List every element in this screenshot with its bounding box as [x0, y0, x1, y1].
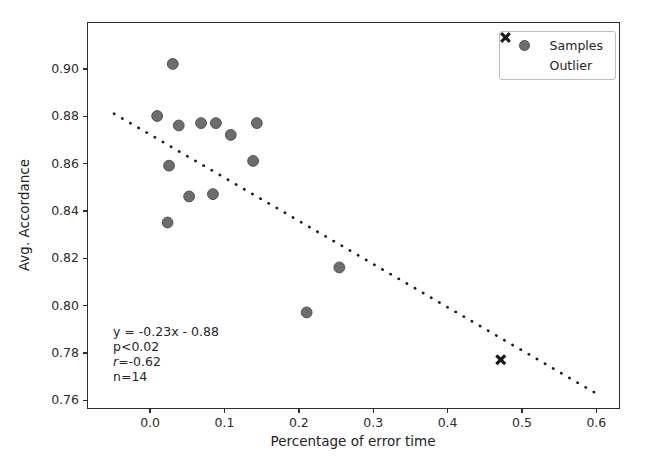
- y-axis-label: Avg. Accordance: [16, 159, 32, 271]
- y-tick-label: 0.78: [35, 345, 79, 360]
- x-axis-label: Percentage of error time: [0, 433, 651, 449]
- x-tick-mark: [447, 409, 448, 414]
- legend-samples-label: Samples: [537, 38, 603, 53]
- x-tick-label: 0.1: [204, 415, 244, 430]
- legend: Samples Outlier: [499, 31, 616, 80]
- samples-circle-icon: [513, 40, 537, 51]
- x-tick-label: 0.5: [502, 415, 542, 430]
- x-tick-label: 0.0: [130, 415, 170, 430]
- y-tick-label: 0.84: [35, 203, 79, 218]
- x-tick-label: 0.3: [353, 415, 393, 430]
- data-point-sample: [162, 217, 173, 228]
- data-point-sample: [164, 160, 175, 171]
- data-point-sample: [334, 262, 345, 273]
- y-tick-label: 0.88: [35, 108, 79, 123]
- stats-annotation-line: p<0.02: [113, 339, 219, 354]
- x-tick-mark: [149, 409, 150, 414]
- data-point-sample: [248, 156, 259, 167]
- plot-area: Samples Outlier y = -0.23x - 0.88p<0.02r…: [87, 22, 620, 409]
- x-tick-label: 0.4: [428, 415, 468, 430]
- y-tick-label: 0.76: [35, 392, 79, 407]
- data-point-sample: [184, 191, 195, 202]
- data-point-sample: [173, 120, 184, 131]
- stats-annotation-line: r=-0.62: [113, 354, 219, 369]
- x-tick-mark: [521, 409, 522, 414]
- x-tick-label: 0.6: [576, 415, 616, 430]
- legend-item-samples: Samples: [513, 38, 603, 53]
- data-point-sample: [211, 118, 222, 129]
- x-tick-mark: [373, 409, 374, 414]
- legend-item-outlier: Outlier: [513, 58, 603, 73]
- data-point-sample: [301, 307, 312, 318]
- legend-outlier-label: Outlier: [537, 58, 592, 73]
- y-tick-label: 0.80: [35, 298, 79, 313]
- x-tick-label: 0.2: [279, 415, 319, 430]
- scatter-plot-figure: Samples Outlier y = -0.23x - 0.88p<0.02r…: [0, 0, 651, 476]
- data-point-sample: [208, 189, 219, 200]
- y-tick-label: 0.86: [35, 156, 79, 171]
- data-point-outlier: [496, 355, 505, 364]
- data-point-sample: [225, 130, 236, 141]
- data-point-sample: [196, 118, 207, 129]
- x-tick-mark: [224, 409, 225, 414]
- stats-annotation: y = -0.23x - 0.88p<0.02r=-0.62n=14: [113, 324, 219, 384]
- data-point-sample: [251, 118, 262, 129]
- data-point-sample: [152, 111, 163, 122]
- stats-annotation-line: n=14: [113, 369, 219, 384]
- x-tick-mark: [596, 409, 597, 414]
- data-point-sample: [167, 59, 178, 70]
- y-tick-label: 0.82: [35, 250, 79, 265]
- stats-annotation-line: y = -0.23x - 0.88: [113, 324, 219, 339]
- y-tick-label: 0.90: [35, 61, 79, 76]
- x-tick-mark: [298, 409, 299, 414]
